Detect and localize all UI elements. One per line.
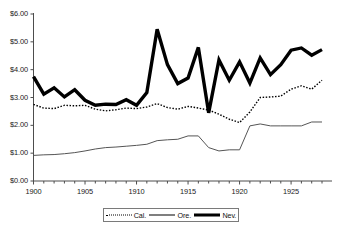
legend-entry: Nev. — [194, 211, 236, 220]
x-axis-tick-label: 1910 — [122, 187, 152, 196]
y-axis-tick-label: $2.00 — [0, 120, 28, 129]
x-axis-tick-label: 1925 — [276, 187, 306, 196]
y-axis-tick-label: $3.00 — [0, 93, 28, 102]
line-chart: $6.00$5.00$4.00$3.00$2.00$1.00$0.00 1900… — [0, 0, 340, 229]
series-line-nev — [34, 29, 323, 113]
y-axis-tick-label: $1.00 — [0, 148, 28, 157]
thick-line-swatch — [194, 212, 220, 219]
series-line-ore — [34, 122, 323, 155]
thin-line-swatch — [149, 212, 175, 219]
x-axis-tick-label: 1905 — [70, 187, 100, 196]
x-axis-tick-label: 1900 — [19, 187, 49, 196]
y-axis-tick-label: $6.00 — [0, 9, 28, 18]
legend-label: Ore. — [177, 211, 191, 220]
legend-entry: Ore. — [149, 211, 191, 220]
legend-entry: Cal. — [106, 211, 146, 220]
y-axis-tick-label: $4.00 — [0, 65, 28, 74]
y-axis-tick-label: $5.00 — [0, 37, 28, 46]
y-axis-tick-label: $0.00 — [0, 176, 28, 185]
legend-label: Nev. — [222, 211, 236, 220]
x-axis-tick-label: 1915 — [173, 187, 203, 196]
series-line-cal — [34, 80, 323, 122]
x-axis-tick-label: 1920 — [225, 187, 255, 196]
chart-legend: Cal.Ore.Nev. — [103, 208, 239, 222]
legend-label: Cal. — [134, 211, 146, 220]
dotted-line-swatch — [106, 212, 132, 219]
